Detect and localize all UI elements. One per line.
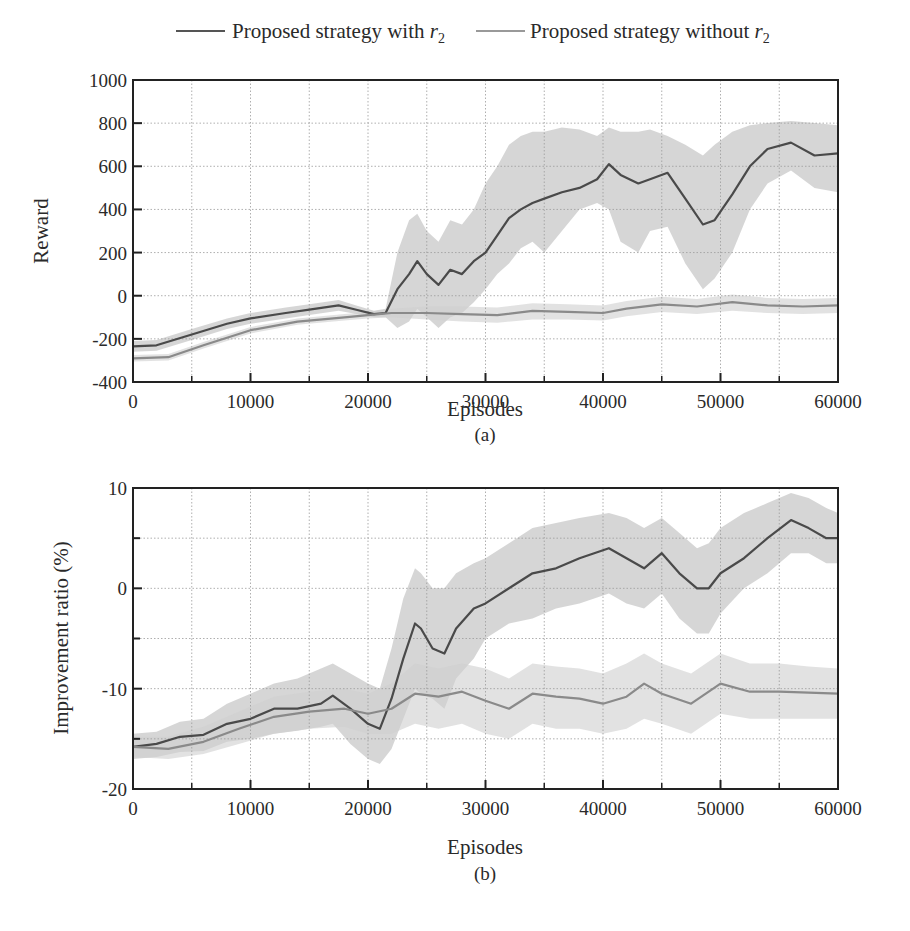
y-tick-label: 800 [99,113,128,134]
x-tick-label: 60000 [814,391,862,412]
x-axis-title: Episodes [447,835,523,859]
y-tick-label: 400 [99,199,128,220]
chart-panel-a: 0100002000030000400005000060000-400-2000… [29,70,862,446]
legend: Proposed strategy with r2 Proposed strat… [176,19,770,46]
legend-label-with-r2: Proposed strategy with r2 [232,19,445,46]
panel-caption: (b) [474,863,496,885]
y-axis-title: Reward [29,198,53,264]
chart-panel-b: 0100002000030000400005000060000-20-10010… [49,478,862,885]
y-tick-label: -200 [92,329,127,350]
x-tick-label: 30000 [462,798,510,819]
x-tick-label: 10000 [227,391,275,412]
x-tick-label: 50000 [697,798,745,819]
panel-caption: (a) [474,424,495,446]
legend-label-without-r2: Proposed strategy without r2 [530,19,770,46]
y-tick-label: 10 [108,478,127,499]
y-tick-label: 1000 [89,70,127,91]
x-tick-label: 40000 [579,798,627,819]
y-tick-label: -10 [102,679,127,700]
x-tick-label: 60000 [814,798,862,819]
y-tick-label: 600 [99,156,128,177]
y-tick-label: -20 [102,779,127,800]
x-tick-label: 0 [128,391,138,412]
x-tick-label: 20000 [344,798,392,819]
x-tick-label: 0 [128,798,138,819]
x-tick-label: 20000 [344,391,392,412]
x-axis-title: Episodes [447,397,523,421]
y-tick-label: 200 [99,243,128,264]
x-tick-label: 10000 [227,798,275,819]
x-tick-label: 50000 [697,391,745,412]
y-tick-label: 0 [118,578,128,599]
figure: Proposed strategy with r2 Proposed strat… [0,0,910,931]
x-tick-label: 40000 [579,391,627,412]
y-tick-label: -400 [92,372,127,393]
y-tick-label: 0 [118,286,128,307]
y-axis-title: Improvement ratio (%) [49,541,73,735]
